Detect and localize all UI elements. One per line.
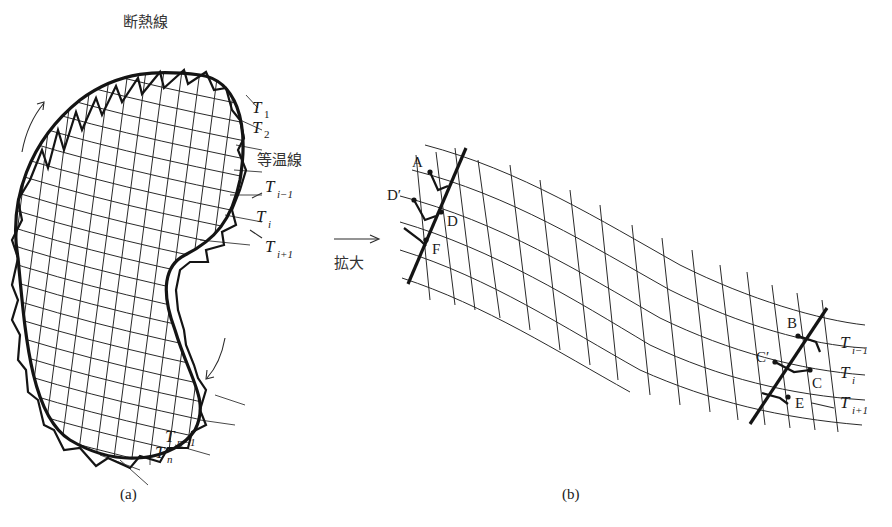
svg-text:T: T [256,207,267,226]
isotherm-label: 等温線 [257,151,302,169]
adiabat-lines [0,55,292,520]
isotherm-curves-b [400,145,865,425]
temp-label-ti+1: T i+1 [250,230,293,260]
magnify-label: 拡大 [334,254,364,272]
label-e: E [795,395,804,411]
temp-label-b-ti: T i [840,363,855,386]
point-c [807,367,812,372]
temp-label-tn-1: T n−1 [165,427,195,448]
point-f [423,237,428,242]
svg-text:i+1: i+1 [852,404,868,416]
point-b [795,333,800,338]
svg-text:T: T [265,177,276,196]
panel-b-caption: (b) [562,486,580,503]
svg-text:i+1: i+1 [277,248,293,260]
temp-label-b-ti-1: T i−1 [840,333,868,356]
svg-text:T: T [840,363,851,382]
temp-label-t1: T 1 [252,98,270,120]
svg-text:T: T [252,98,263,117]
svg-text:T: T [840,333,851,352]
label-a: A [412,154,423,170]
adiabat-label: 断熱線 [123,13,168,31]
label-d-prime: D′ [387,187,401,203]
grid-fringe [100,95,262,485]
zigzag-carnot-path [12,70,246,468]
svg-text:T: T [165,427,176,446]
svg-text:i: i [852,374,855,386]
svg-text:i−1: i−1 [852,344,868,356]
label-c-prime: C′ [756,349,769,365]
temp-label-tn: T n [155,443,173,465]
panel-b: A D′ D F B C′ C E T i−1 T i T i+1 (b) [387,145,868,503]
panel-a-caption: (a) [120,486,137,503]
label-f: F [432,241,440,257]
svg-text:n: n [167,453,173,465]
svg-text:i−1: i−1 [277,188,293,200]
label-b: B [787,315,797,331]
carnot-decomposition-figure: 断熱線 等温線 T 1 T 2 T i−1 T i T i+1 T n−1 [0,0,892,527]
magnify-indicator: 拡大 [334,235,379,272]
svg-text:T: T [155,443,166,462]
temp-label-ti: T i [256,207,271,230]
svg-text:n−1: n−1 [177,436,195,448]
point-d-prime [411,197,416,202]
point-c-prime [772,359,777,364]
svg-text:T: T [840,393,851,412]
svg-text:T: T [252,118,263,137]
label-d: D [447,213,458,229]
clockwise-arrow-bottom [206,338,225,379]
panel-a: 断熱線 等温線 T 1 T 2 T i−1 T i T i+1 T n−1 [0,13,302,520]
point-e [785,394,790,399]
point-a [427,169,432,174]
point-d [438,209,443,214]
svg-text:i: i [268,218,271,230]
label-c: C [812,375,822,391]
svg-text:1: 1 [264,108,270,120]
temp-label-b-ti+1: T i+1 [840,393,868,416]
svg-text:T: T [265,237,276,256]
temp-label-t2: T 2 [252,118,270,140]
temp-label-ti-1: T i−1 [252,177,293,200]
svg-text:2: 2 [264,128,270,140]
